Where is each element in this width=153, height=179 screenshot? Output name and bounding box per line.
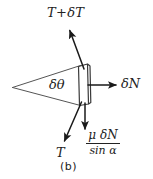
tension-out-label: T+δT <box>47 6 84 19</box>
friction-numerator: μ δN <box>87 129 118 143</box>
tension-in-arrow <box>65 102 82 141</box>
tension-in-label: T <box>56 146 65 159</box>
figure-container: T+δT δθ δN T μ δN sin α (b) <box>0 0 153 179</box>
normal-force-label: δN <box>121 77 140 90</box>
friction-force-label: μ δN sin α <box>86 129 120 156</box>
pulley-wedge <box>13 66 81 106</box>
friction-denominator: sin α <box>88 144 117 157</box>
tension-out-arrow <box>70 31 84 70</box>
figure-caption: (b) <box>60 161 77 172</box>
wedge-angle-label: δθ <box>49 78 65 91</box>
